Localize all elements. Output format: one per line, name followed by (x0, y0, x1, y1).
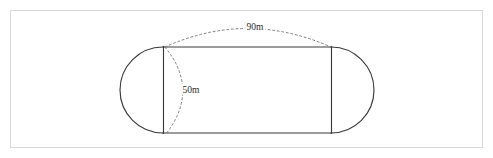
left-semicircle-cap (120, 47, 163, 133)
stadium-diagram: 90m 90m 50m 50m (0, 0, 493, 158)
length-label: 90m (247, 22, 265, 32)
width-dimension-arc (165, 47, 183, 134)
right-semicircle-cap (331, 47, 374, 133)
width-label: 50m (183, 85, 201, 95)
